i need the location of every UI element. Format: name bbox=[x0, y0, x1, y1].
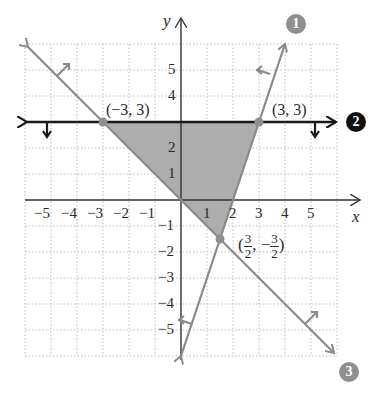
x-tick: 2 bbox=[229, 206, 237, 221]
frac-den: 2 bbox=[271, 247, 278, 261]
frac-num: 3 bbox=[244, 232, 253, 247]
vertex-point bbox=[99, 118, 108, 127]
line-3-badge: 3 bbox=[339, 362, 359, 382]
y-tick: 2 bbox=[168, 140, 176, 155]
point-label-3-3: (3, 3) bbox=[272, 102, 307, 118]
frac-num: 3 bbox=[270, 232, 279, 247]
x-tick: −2 bbox=[113, 206, 129, 221]
coordinate-graph bbox=[0, 0, 391, 400]
x-tick: 3 bbox=[255, 206, 263, 221]
x-tick: 1 bbox=[203, 206, 211, 221]
y-tick: −3 bbox=[158, 270, 174, 285]
point-label-3half-neg3half: (32, −32) bbox=[238, 232, 284, 260]
y-tick: 1 bbox=[168, 166, 176, 181]
x-tick: −4 bbox=[61, 206, 77, 221]
y-tick: −5 bbox=[158, 322, 174, 337]
x-tick: −1 bbox=[139, 206, 155, 221]
y-tick: −1 bbox=[158, 218, 174, 233]
line-2-badge: 2 bbox=[346, 112, 366, 132]
vertex-point bbox=[216, 235, 225, 244]
y-tick: 4 bbox=[168, 88, 176, 103]
x-axis-label: x bbox=[352, 208, 360, 225]
line-1-badge: 1 bbox=[286, 14, 306, 34]
frac-den: 2 bbox=[245, 247, 252, 261]
vertex-point bbox=[255, 118, 264, 127]
x-tick: −5 bbox=[34, 206, 50, 221]
x-tick: −3 bbox=[87, 206, 103, 221]
x-tick: 4 bbox=[281, 206, 289, 221]
x-tick: 5 bbox=[307, 206, 315, 221]
y-tick: −4 bbox=[158, 296, 174, 311]
y-tick: 5 bbox=[168, 62, 176, 77]
point-label-neg3-3: (−3, 3) bbox=[106, 102, 150, 118]
y-tick: −2 bbox=[158, 244, 174, 259]
y-axis-label: y bbox=[163, 12, 171, 29]
